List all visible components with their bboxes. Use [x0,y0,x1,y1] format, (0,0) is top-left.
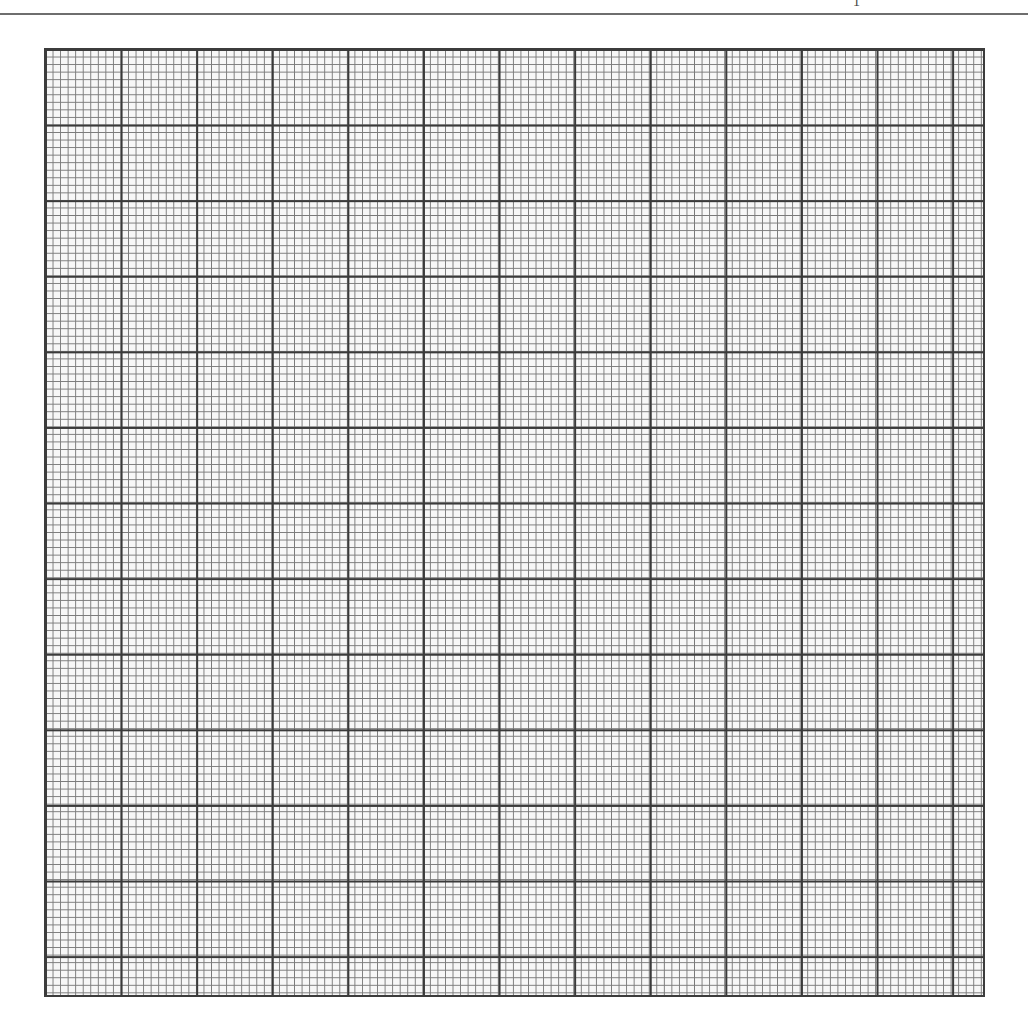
graph-paper-grid [44,48,985,997]
header-rule [0,13,1028,15]
page-number: 1 [853,0,860,10]
